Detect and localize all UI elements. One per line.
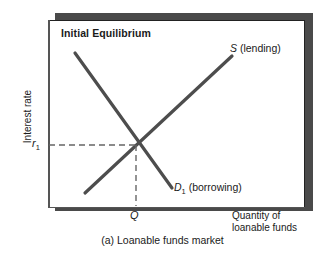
- y-axis-line: [48, 20, 50, 208]
- demand-curve-label: D1 (borrowing): [174, 181, 242, 196]
- supply-curve-label: S (lending): [230, 42, 281, 54]
- x-axis-tick-label-q: Q: [130, 209, 139, 221]
- supply-curve-symbol: S: [230, 42, 237, 54]
- y-axis-tick-label-r1: r1: [32, 137, 40, 152]
- x-axis-title: Quantity of loanable funds: [232, 210, 297, 233]
- x-axis-title-line1: Quantity of: [232, 210, 297, 222]
- x-axis-title-line2: loanable funds: [232, 222, 297, 234]
- loanable-funds-figure: Initial Equilibrium r1 Q Interest rate Q…: [0, 0, 325, 258]
- supply-curve-note: (lending): [237, 42, 281, 54]
- demand-curve-note: (borrowing): [186, 181, 242, 193]
- y-axis-tick-label-r1-subscript: 1: [36, 143, 40, 152]
- demand-curve-symbol-text: D: [174, 181, 182, 193]
- x-axis-line: [48, 207, 305, 209]
- demand-curve-symbol: D1: [174, 181, 186, 193]
- figure-caption: (a) Loanable funds market: [0, 234, 325, 246]
- panel-title: Initial Equilibrium: [61, 27, 151, 39]
- y-axis-title: Interest rate: [22, 67, 33, 167]
